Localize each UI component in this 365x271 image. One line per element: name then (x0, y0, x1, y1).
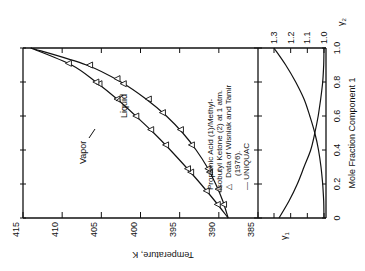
temperature-tick-label: 385 (246, 222, 256, 237)
temperature-tick-label: 405 (89, 222, 99, 237)
temperature-axis-label: Temperature, K (132, 250, 194, 260)
gamma1-label: γ1 (279, 231, 290, 240)
legend-uniquac: — UNIQUAC (242, 143, 251, 190)
vapor-label: Vapor (78, 141, 88, 164)
vapor-curve (31, 48, 228, 218)
legend-block: Propionic Acid (1)/Methyl- isobutyl Keto… (206, 84, 251, 190)
vle-chart: 415410405400395390385 00.20.40.60.81.0 1… (0, 0, 365, 271)
gamma-tick-label: 1.0 (319, 31, 329, 44)
data-point-marker (65, 60, 71, 66)
gamma2-subscript: 2 (341, 17, 347, 21)
data-point-marker (114, 76, 120, 82)
liquid-label: Liquid (119, 94, 129, 118)
mole-fraction-tick-label: 0.8 (332, 76, 342, 89)
legend-marker: △ (224, 183, 233, 190)
temperature-tick-label: 390 (207, 222, 217, 237)
temperature-tick-label: 395 (168, 222, 178, 237)
gamma1-subscript: 1 (284, 231, 290, 235)
gamma2-curve (274, 48, 324, 218)
mole-fraction-tick-label: 0.4 (332, 144, 342, 157)
vapor-annotation: Vapor (78, 129, 95, 164)
system-title-line-4: (1976). (233, 151, 242, 176)
system-title-line-2: isobutyl Ketone (2) at 1 atm. (215, 90, 224, 190)
system-title-line-3: Data of Wisniak and Tamir (224, 84, 233, 178)
mole-fraction-axis-label: Mole Fraction Component 1 (347, 77, 357, 188)
plot-frame (23, 48, 326, 218)
data-point-marker (87, 62, 93, 68)
gamma-tick-label: 1.2 (286, 31, 296, 44)
gamma2-label: γ2 (336, 17, 347, 26)
system-title-line-1: Propionic Acid (1)/Methyl- (206, 99, 215, 190)
mole-fraction-tick-label: 0.6 (332, 110, 342, 123)
mole-fraction-tick-label: 1.0 (332, 42, 342, 55)
gamma-tick-label: 1.1 (302, 31, 312, 44)
temperature-axis: 415410405400395390385 (11, 212, 258, 237)
data-point-marker (214, 201, 220, 207)
temperature-tick-label: 415 (11, 222, 21, 237)
mole-fraction-tick-label: 0 (332, 215, 342, 220)
gamma-axis: 1.31.21.11.0 (269, 31, 329, 218)
temperature-top-ticks (62, 48, 219, 53)
liquid-curve (31, 48, 228, 218)
gamma-tick-label: 1.3 (269, 31, 279, 44)
liquid-data-markers (65, 60, 220, 207)
gamma1-curve (279, 48, 324, 218)
temperature-tick-label: 400 (129, 222, 139, 237)
mole-fraction-tick-label: 0.2 (332, 178, 342, 191)
temperature-tick-label: 410 (50, 222, 60, 237)
